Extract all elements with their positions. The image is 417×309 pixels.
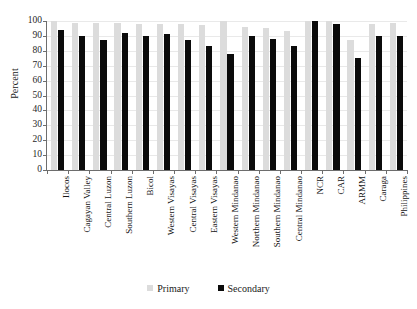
x-axis-category-label: Cagayan Valley <box>83 176 92 233</box>
bar-group <box>199 21 212 170</box>
bar-primary <box>242 27 248 170</box>
x-axis-category-label: Eastern Visayas <box>210 176 219 233</box>
y-axis-tick-label: 50 <box>16 91 42 100</box>
x-axis-tick-mark <box>68 170 69 174</box>
x-axis-category-label: Southern Luzon <box>125 176 134 234</box>
legend-swatch <box>147 285 153 291</box>
bar-secondary <box>333 24 339 170</box>
x-axis-category-label: CAR <box>337 176 346 195</box>
bar-secondary <box>79 36 85 170</box>
x-axis-tick-mark <box>322 170 323 174</box>
bar-secondary <box>397 36 403 170</box>
x-axis-category-label: Central Luzon <box>104 176 113 228</box>
bar-primary <box>390 23 396 171</box>
bar-secondary <box>143 36 149 170</box>
chart-title-strip <box>0 0 417 7</box>
bar-secondary <box>312 21 318 170</box>
x-axis-category-label: Western Mindanao <box>231 176 240 244</box>
bar-primary <box>51 21 57 170</box>
bar-primary <box>305 21 311 170</box>
y-axis-tick-label: 10 <box>16 150 42 159</box>
bar-group <box>347 21 360 170</box>
y-axis-tick-label: 0 <box>16 165 42 174</box>
y-axis-tick-label: 60 <box>16 76 42 85</box>
bar-primary <box>326 21 332 170</box>
bar-secondary <box>270 39 276 170</box>
bar-secondary <box>164 34 170 170</box>
bar-primary <box>220 21 226 170</box>
bar-group <box>114 21 127 170</box>
bar-secondary <box>376 36 382 170</box>
bar-group <box>242 21 255 170</box>
legend-swatch <box>218 285 224 291</box>
x-axis-category-label: Central Mindanao <box>295 176 304 241</box>
bar-group <box>51 21 64 170</box>
bar-group <box>305 21 318 170</box>
x-axis-category-label: ARMM <box>358 176 367 205</box>
bar-primary <box>369 24 375 170</box>
bar-secondary <box>58 30 64 170</box>
bar-primary <box>136 24 142 170</box>
x-axis-tick-mark <box>407 170 408 174</box>
y-axis-tick-label: 100 <box>16 16 42 25</box>
x-axis-tick-mark <box>259 170 260 174</box>
bar-secondary <box>227 54 233 170</box>
x-axis-tick-mark <box>301 170 302 174</box>
legend-label: Secondary <box>228 283 270 294</box>
bar-secondary <box>206 46 212 170</box>
x-axis-tick-mark <box>89 170 90 174</box>
bar-group <box>284 21 297 170</box>
bar-secondary <box>185 40 191 170</box>
bar-group <box>72 21 85 170</box>
legend-label: Primary <box>157 283 189 294</box>
bar-primary <box>263 28 269 170</box>
x-axis-category-label: Philippines <box>400 176 409 217</box>
legend-item: Secondary <box>218 283 270 294</box>
bar-primary <box>199 25 205 170</box>
bar-secondary <box>355 58 361 170</box>
x-axis-tick-mark <box>111 170 112 174</box>
bar-group <box>263 21 276 170</box>
legend-item: Primary <box>147 283 189 294</box>
bar-primary <box>347 40 353 170</box>
bar-group <box>93 21 106 170</box>
x-axis-tick-mark <box>195 170 196 174</box>
bar-primary <box>93 23 99 171</box>
bar-secondary <box>249 36 255 170</box>
x-axis-tick-mark <box>343 170 344 174</box>
x-axis-tick-mark <box>216 170 217 174</box>
chart-legend: PrimarySecondary <box>0 283 417 294</box>
x-axis-line <box>47 170 408 171</box>
y-axis-tick-label: 70 <box>16 61 42 70</box>
y-axis-tick-label: 30 <box>16 120 42 129</box>
y-axis-tick-label: 40 <box>16 105 42 114</box>
x-axis-tick-mark <box>280 170 281 174</box>
y-axis-tick-label: 20 <box>16 135 42 144</box>
x-axis-tick-mark <box>174 170 175 174</box>
bar-group <box>157 21 170 170</box>
x-axis-tick-mark <box>132 170 133 174</box>
x-axis-category-label: Bicol <box>146 176 155 196</box>
plot-area <box>47 21 407 170</box>
bar-secondary <box>291 46 297 170</box>
bar-secondary <box>122 33 128 170</box>
bar-primary <box>284 31 290 170</box>
y-axis-ticks: 0102030405060708090100 <box>0 0 46 309</box>
bar-primary <box>178 24 184 170</box>
x-axis-tick-mark <box>386 170 387 174</box>
bar-group <box>390 21 403 170</box>
bar-group <box>369 21 382 170</box>
x-axis-category-label: Ilocos <box>62 176 71 198</box>
bar-group <box>220 21 233 170</box>
bar-primary <box>114 23 120 171</box>
y-axis-tick-label: 80 <box>16 46 42 55</box>
x-axis-tick-mark <box>153 170 154 174</box>
x-axis-category-label: Central Visayas <box>189 176 198 233</box>
x-axis-category-label: NCR <box>316 176 325 195</box>
x-axis-category-label: Southern Mindanao <box>273 176 282 247</box>
x-axis-tick-mark <box>238 170 239 174</box>
x-axis-category-label: Caraga <box>379 176 388 201</box>
bar-primary <box>72 23 78 171</box>
bar-secondary <box>100 40 106 170</box>
y-axis-tick-label: 90 <box>16 31 42 40</box>
